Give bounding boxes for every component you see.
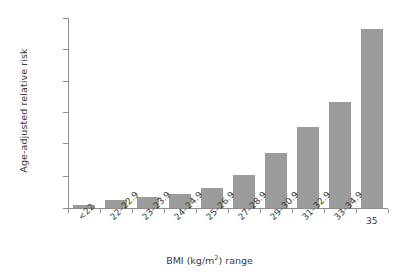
x-axis-title: BMI (kg/m2) range [0, 254, 419, 266]
bar-slot [166, 18, 195, 208]
bar-slot [262, 18, 291, 208]
plot-area [68, 18, 388, 208]
bar [361, 29, 383, 208]
bar-chart: Age-adjusted relative risk 0102040608010… [0, 0, 419, 275]
x-tick-mark [164, 209, 165, 213]
x-tick-mark [260, 209, 261, 213]
bar-slot [358, 18, 387, 208]
x-tick-mark [324, 209, 325, 213]
bar-slot [294, 18, 323, 208]
x-tick-mark [356, 209, 357, 213]
x-axis-title-prefix: BMI (kg/m [166, 255, 214, 266]
x-tick-label: 35 [366, 216, 377, 226]
bar-slot [230, 18, 259, 208]
x-tick-mark [100, 209, 101, 213]
bar [329, 102, 351, 208]
y-axis-title: Age-adjusted relative risk [18, 16, 29, 206]
bar-slot [198, 18, 227, 208]
x-tick-mark [388, 209, 389, 213]
bar-slot [134, 18, 163, 208]
bar-slot [326, 18, 355, 208]
x-axis-title-suffix: ) range [219, 255, 253, 266]
bar-slot [70, 18, 99, 208]
x-tick-mark [68, 209, 69, 213]
x-tick-mark [228, 209, 229, 213]
x-tick-mark [132, 209, 133, 213]
x-tick-mark [196, 209, 197, 213]
x-tick-mark [292, 209, 293, 213]
bar-slot [102, 18, 131, 208]
